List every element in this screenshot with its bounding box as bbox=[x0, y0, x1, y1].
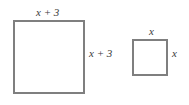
small-square-side-label: x bbox=[172, 48, 177, 59]
small-square bbox=[132, 39, 168, 76]
large-square-top-label: x + 3 bbox=[36, 7, 59, 18]
large-square-side-label: x + 3 bbox=[89, 48, 112, 59]
small-square-top-label: x bbox=[149, 26, 154, 37]
large-square bbox=[13, 20, 85, 94]
